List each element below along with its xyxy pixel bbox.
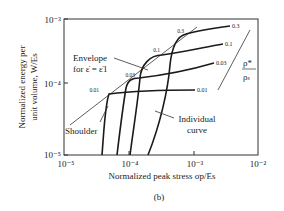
curve-end-label-0.1: 0.1 bbox=[225, 41, 233, 47]
chart-figure: 10⁻³ 10⁻⁴ 10⁻⁵ 10⁻⁵ 10⁻⁴ 10⁻³ 10⁻² Norma… bbox=[0, 0, 284, 211]
annotation-envelope: Envelope bbox=[73, 53, 107, 63]
annotation-shoulder: Shoulder bbox=[65, 126, 98, 136]
curve-label-0.1: 0.1 bbox=[153, 47, 160, 53]
curve-label-0.01: 0.01 bbox=[89, 87, 99, 93]
annotation-individual-line2: curve bbox=[187, 125, 207, 135]
series-0.1 bbox=[130, 44, 223, 155]
curve-end-label-0.3: 0.3 bbox=[232, 23, 240, 29]
y-axis-label: Normalized energy per bbox=[17, 46, 27, 129]
curve-end-label-0.03: 0.03 bbox=[216, 60, 227, 66]
curve-label-0.03: 0.03 bbox=[125, 72, 135, 78]
curve-end-label-0.01: 0.01 bbox=[197, 87, 208, 93]
annotation-shoulder-arrow bbox=[100, 106, 108, 122]
annotation-individual-arrow bbox=[155, 111, 174, 118]
y-tick-label: 10⁻³ bbox=[45, 15, 62, 25]
y-axis-label: unit volume, W/Es bbox=[29, 53, 39, 121]
x-axis bbox=[129, 151, 194, 155]
x-tick-label: 10⁻³ bbox=[187, 159, 204, 169]
curve-label-0.3: 0.3 bbox=[177, 28, 184, 34]
legend-numerator: ρ* bbox=[243, 58, 252, 68]
y-tick-label: 10⁻⁴ bbox=[44, 79, 61, 89]
annotation-envelope-arrow bbox=[114, 58, 148, 70]
legend-denominator: ρs bbox=[243, 72, 251, 82]
x-tick-label: 10⁻² bbox=[250, 159, 267, 169]
annotation-individual: Individual bbox=[179, 114, 216, 124]
x-tick-label: 10⁻⁵ bbox=[58, 159, 75, 169]
x-axis-label: Normalized peak stress σp/Es bbox=[108, 171, 216, 181]
figure-caption: (b) bbox=[154, 192, 165, 202]
annotation-envelope-line2: for ε̇ = ε̇1 bbox=[73, 64, 107, 74]
x-tick-label: 10⁻⁴ bbox=[122, 159, 139, 169]
